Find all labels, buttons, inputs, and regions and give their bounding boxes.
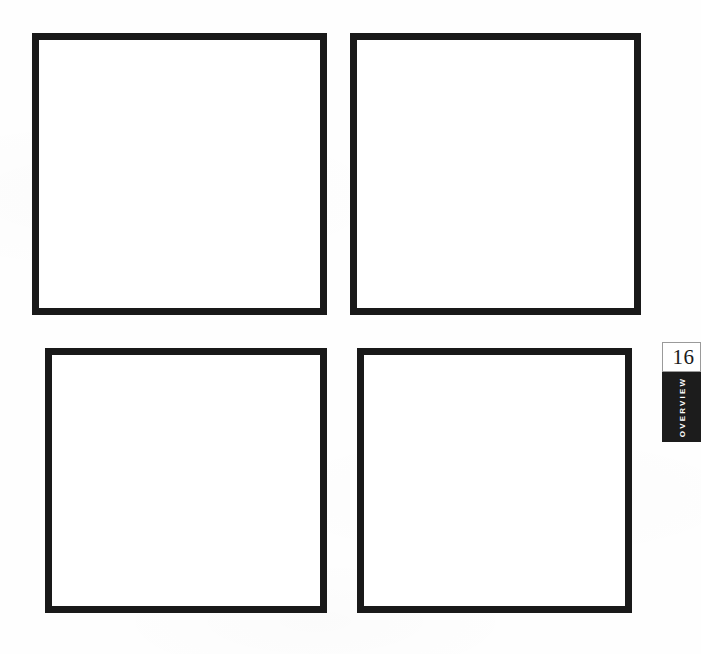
section-label: OVERVIEW — [677, 377, 686, 438]
page-number-box: 16 — [662, 342, 701, 372]
page-marker-tab: 16 OVERVIEW — [662, 342, 701, 442]
image-placeholder-frame — [350, 33, 641, 315]
image-placeholder-frame — [357, 348, 632, 613]
image-placeholder-frame — [32, 33, 327, 315]
document-page: 16 OVERVIEW — [0, 0, 701, 654]
image-placeholder-frame — [45, 348, 327, 613]
section-label-box: OVERVIEW — [662, 372, 701, 442]
page-number: 16 — [669, 347, 695, 368]
